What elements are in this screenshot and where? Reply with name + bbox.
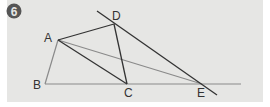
segment-d-c bbox=[114, 24, 127, 84]
segment-a-c bbox=[58, 40, 127, 84]
point-label-c: C bbox=[124, 86, 133, 100]
point-label-e: E bbox=[197, 86, 205, 100]
point-label-a: A bbox=[44, 31, 52, 45]
badge-number: 6 bbox=[11, 5, 18, 19]
line-through-d-e bbox=[97, 11, 217, 95]
geometry-figure: 6 A B C D E bbox=[0, 0, 270, 107]
segment-a-d bbox=[58, 24, 114, 40]
segment-a-b bbox=[45, 40, 58, 84]
point-label-b: B bbox=[33, 78, 41, 92]
figure-badge: 6 bbox=[7, 4, 22, 19]
point-label-d: D bbox=[112, 9, 121, 23]
segment-a-e bbox=[58, 40, 202, 84]
